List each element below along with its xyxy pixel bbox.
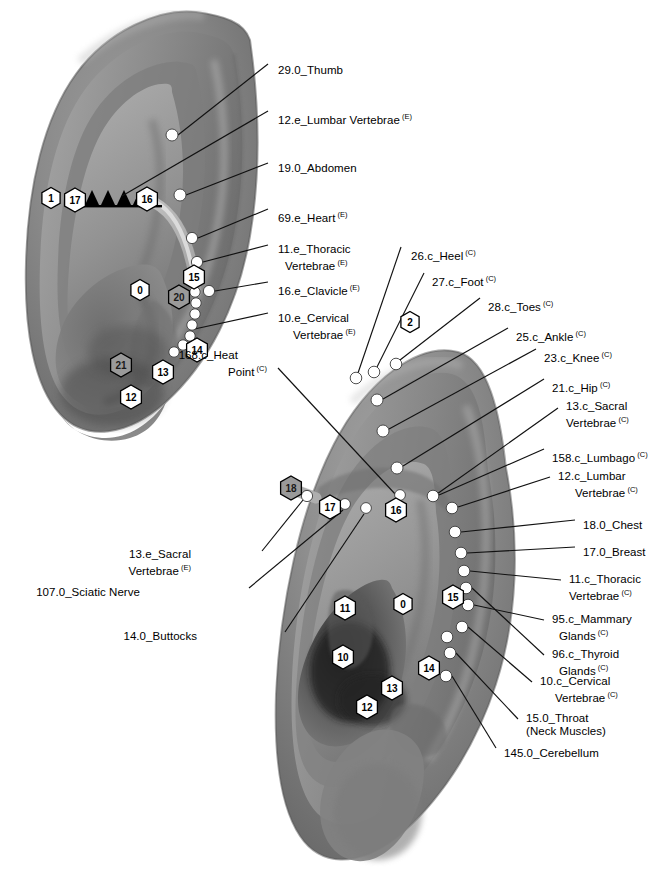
label-text: 69.e_Heart bbox=[278, 212, 335, 224]
zone-hexagon-17[interactable]: 17 bbox=[65, 188, 86, 212]
zone-hexagon-20[interactable]: 20 bbox=[169, 285, 190, 309]
hexagon-number: 14 bbox=[423, 663, 435, 674]
label-superscript: (C) bbox=[484, 274, 497, 283]
zone-hexagon-11[interactable]: 11 bbox=[335, 596, 356, 620]
acupoint-heel[interactable] bbox=[350, 372, 362, 384]
point-label-l12b: Vertebrae (C) bbox=[569, 586, 632, 603]
hexagon-number: 15 bbox=[188, 272, 200, 283]
point-label-ll2: 107.0_Sciatic Nerve bbox=[36, 586, 140, 600]
label-superscript: (C) bbox=[255, 364, 268, 373]
acupoint-hip[interactable] bbox=[391, 462, 403, 474]
zone-hexagon-15[interactable]: 15 bbox=[443, 585, 464, 609]
point-label-l16a: 15.0_Throat bbox=[526, 712, 589, 726]
point-label-u7b: Vertebrae (E) bbox=[293, 325, 355, 342]
acupoint-chest[interactable] bbox=[449, 526, 461, 538]
zone-hexagon-2[interactable]: 2 bbox=[401, 312, 419, 333]
zone-hexagon-18[interactable]: 18 bbox=[281, 476, 302, 500]
zone-hexagon-15[interactable]: 15 bbox=[184, 265, 205, 289]
point-label-l3: 28.c_Toes (C) bbox=[488, 297, 553, 314]
point-label-u6: 16.e_Clavicle (E) bbox=[278, 281, 360, 298]
acupoint-thoracic-t1[interactable] bbox=[458, 565, 470, 577]
acupoint-clavicle[interactable] bbox=[203, 285, 214, 296]
ear-acupuncture-diagram: 117161502014211312 bbox=[0, 0, 672, 884]
label-superscript: (C) bbox=[616, 415, 629, 424]
label-superscript: (E) bbox=[335, 210, 347, 219]
zone-hexagon-1[interactable]: 1 bbox=[42, 188, 60, 209]
label-text: (Neck Muscles) bbox=[526, 725, 606, 737]
zone-hexagon-12[interactable]: 12 bbox=[121, 385, 142, 409]
label-superscript: (C) bbox=[596, 628, 609, 637]
point-label-l17: 145.0_Cerebellum bbox=[504, 747, 599, 761]
label-text: 14.0_Buttocks bbox=[123, 630, 197, 642]
acupoint-cervical-c2[interactable] bbox=[191, 298, 201, 308]
label-superscript: (C) bbox=[463, 248, 476, 257]
point-label-ll0b: Point (C) bbox=[228, 362, 267, 379]
hexagon-number: 10 bbox=[337, 652, 349, 663]
acupoint-heart[interactable] bbox=[186, 232, 197, 243]
zone-hexagon-0[interactable]: 0 bbox=[131, 280, 149, 301]
zone-hexagon-17[interactable]: 17 bbox=[320, 495, 341, 519]
hexagon-number: 16 bbox=[141, 194, 153, 205]
point-label-l8: 158.c_Lumbago (C) bbox=[552, 448, 648, 465]
zone-hexagon-14[interactable]: 14 bbox=[419, 656, 440, 680]
acupoint-cervical-c1[interactable] bbox=[441, 631, 453, 643]
zone-hexagon-16[interactable]: 16 bbox=[137, 187, 158, 211]
point-label-l9b: Vertebrae (C) bbox=[575, 483, 638, 500]
acupoint-thumb[interactable] bbox=[166, 129, 178, 141]
acupoint-foot[interactable] bbox=[368, 366, 380, 378]
zone-hexagon-21[interactable]: 21 bbox=[111, 353, 132, 377]
acupoint-buttocks[interactable] bbox=[361, 503, 372, 514]
hexagon-number: 0 bbox=[137, 285, 143, 296]
point-label-u4: 69.e_Heart (E) bbox=[278, 208, 348, 225]
point-label-l7a: 13.c_Sacral bbox=[566, 400, 627, 414]
point-label-l5: 23.c_Knee (C) bbox=[544, 348, 612, 365]
point-label-u3: 19.0_Abdomen bbox=[278, 162, 357, 176]
label-text: 21.c_Hip bbox=[552, 382, 598, 394]
acupoint-abdomen[interactable] bbox=[174, 189, 186, 201]
label-text: Vertebrae bbox=[575, 487, 625, 499]
acupoint-thyroid-glands[interactable] bbox=[456, 621, 468, 633]
label-text: Vertebrae bbox=[569, 590, 619, 602]
label-superscript: (E) bbox=[400, 112, 412, 121]
acupoint-sciatic-nerve[interactable] bbox=[340, 499, 351, 510]
acupoint-cerebellum[interactable] bbox=[440, 670, 452, 682]
label-superscript: (C) bbox=[596, 663, 609, 672]
acupoint-ankle[interactable] bbox=[371, 394, 383, 406]
acupoint-knee[interactable] bbox=[377, 425, 389, 437]
acupoint-cervical-c4[interactable] bbox=[187, 320, 197, 330]
acupoint-cervical-c7[interactable] bbox=[169, 347, 179, 357]
label-text: 107.0_Sciatic Nerve bbox=[36, 586, 140, 598]
zone-hexagon-12[interactable]: 12 bbox=[357, 695, 378, 719]
label-text: 158.c_Lumbago bbox=[552, 452, 635, 464]
label-text: 12.c_Lumbar bbox=[558, 470, 626, 482]
label-text: 11.c_Thoracic bbox=[569, 573, 641, 585]
acupoint-breast[interactable] bbox=[455, 547, 467, 559]
zone-hexagon-16[interactable]: 16 bbox=[386, 498, 407, 522]
acupoint-toes[interactable] bbox=[390, 358, 402, 370]
point-label-l6: 21.c_Hip (C) bbox=[552, 378, 610, 395]
point-label-u2: 12.e_Lumbar Vertebrae (E) bbox=[278, 110, 412, 127]
acupoint-lumbar-vertebrae[interactable] bbox=[446, 502, 458, 514]
point-label-l15a: 10.c_Cervical bbox=[540, 675, 610, 689]
label-text: 25.c_Ankle bbox=[516, 331, 573, 343]
zone-hexagon-0[interactable]: 0 bbox=[394, 594, 412, 615]
acupoint-throat[interactable] bbox=[444, 647, 456, 659]
zone-hexagon-13[interactable]: 13 bbox=[382, 676, 403, 700]
label-text: 29.0_Thumb bbox=[278, 64, 343, 76]
zone-hexagon-13[interactable]: 13 bbox=[153, 360, 174, 384]
label-text: 17.0_Breast bbox=[583, 546, 646, 558]
label-superscript: (E) bbox=[348, 283, 360, 292]
label-text: 11.e_Thoracic bbox=[278, 243, 351, 255]
label-superscript: (C) bbox=[598, 380, 611, 389]
acupoint-cervical-c3[interactable] bbox=[190, 309, 200, 319]
acupoint-lumbago[interactable] bbox=[427, 490, 439, 502]
point-label-u1: 29.0_Thumb bbox=[278, 64, 343, 78]
zone-hexagon-10[interactable]: 10 bbox=[333, 645, 354, 669]
label-text: 15.0_Throat bbox=[526, 712, 589, 724]
hexagon-number: 17 bbox=[324, 502, 336, 513]
label-text: 19.0_Abdomen bbox=[278, 162, 357, 174]
acupoint-sacral-vertebrae[interactable] bbox=[301, 490, 312, 501]
point-label-ll0a: 168.c_Heat bbox=[179, 349, 238, 363]
label-text: Vertebrae bbox=[555, 692, 605, 704]
point-label-l4: 25.c_Ankle (C) bbox=[516, 327, 586, 344]
